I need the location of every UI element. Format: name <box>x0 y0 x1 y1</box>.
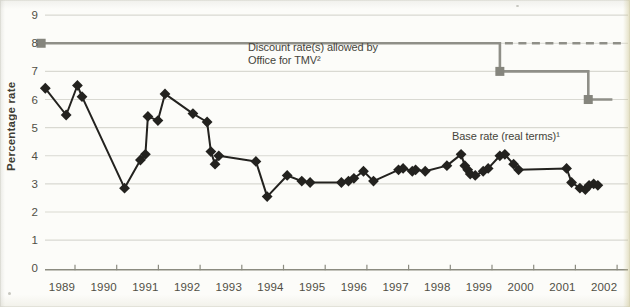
y-tick-label: 1 <box>32 234 38 246</box>
x-tick-label: 1991 <box>132 281 158 293</box>
chart-page: 0123456789198919901991199219931994199519… <box>0 0 630 307</box>
scan-speck <box>8 292 11 295</box>
base-rate-marker <box>420 166 431 177</box>
y-tick-label: 7 <box>32 65 38 77</box>
base-rate-marker <box>561 163 572 174</box>
base-rate-annotation: Base rate (real terms)¹ <box>452 130 560 143</box>
y-tick-label: 6 <box>32 94 38 106</box>
discount-rate-marker <box>584 95 593 104</box>
discount-rate-annotation: Discount rate(s) allowed by Office for T… <box>248 41 378 67</box>
base-rate-marker <box>296 176 307 187</box>
base-rate-marker <box>143 111 154 122</box>
y-tick-label: 3 <box>32 178 38 190</box>
x-tick-label: 2002 <box>591 281 617 293</box>
y-tick-label: 2 <box>32 206 38 218</box>
x-tick-label: 1990 <box>91 281 117 293</box>
discount-rate-annotation-line1: Discount rate(s) allowed by <box>248 41 378 53</box>
x-tick-label: 1992 <box>174 281 200 293</box>
discount-rate-marker <box>495 67 504 76</box>
x-tick-label: 1995 <box>299 281 325 293</box>
scan-speck <box>516 5 519 7</box>
x-tick-label: 2000 <box>508 281 534 293</box>
x-tick-label: 1996 <box>341 281 367 293</box>
y-tick-label: 0 <box>32 262 38 274</box>
x-tick-label: 1989 <box>49 281 75 293</box>
x-tick-label: 1999 <box>466 281 492 293</box>
y-tick-label: 9 <box>32 9 38 21</box>
discount-rate-annotation-line2: Office for TMV² <box>248 54 321 66</box>
y-tick-label: 5 <box>32 122 38 134</box>
x-tick-label: 1993 <box>216 281 242 293</box>
x-tick-label: 1997 <box>382 281 408 293</box>
base-rate-marker <box>77 91 88 102</box>
y-tick-label: 4 <box>32 150 39 162</box>
base-rate-marker <box>305 177 316 188</box>
y-axis-title: Percentage rate <box>3 62 19 190</box>
x-tick-label: 1994 <box>257 281 284 293</box>
base-rate-marker <box>566 177 577 188</box>
base-rate-marker <box>251 156 262 167</box>
y-tick-label: 8 <box>32 37 38 49</box>
base-rate-marker <box>202 117 213 128</box>
base-rate-marker <box>72 80 83 91</box>
discount-rate-marker <box>37 39 46 48</box>
x-tick-label: 1998 <box>424 281 450 293</box>
base-rate-marker <box>153 115 164 126</box>
x-tick-label: 2001 <box>549 281 575 293</box>
